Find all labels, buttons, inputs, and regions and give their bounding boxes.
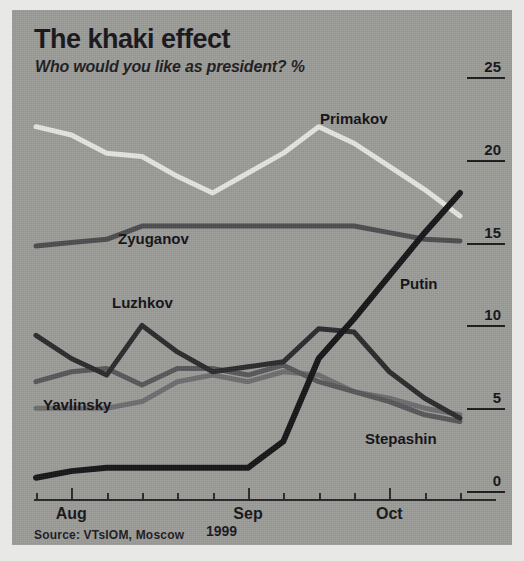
x-axis-tick <box>460 493 462 499</box>
x-axis-tick <box>142 493 144 499</box>
series-label-putin: Putin <box>400 275 438 292</box>
x-axis-tick <box>248 488 250 499</box>
y-axis-tick <box>467 325 505 327</box>
y-axis-label: 10 <box>467 306 501 323</box>
x-axis-label-aug: Aug <box>56 505 87 523</box>
y-axis-tick <box>467 408 505 410</box>
y-axis-label: 15 <box>467 224 501 241</box>
x-axis-tick <box>283 493 285 499</box>
x-axis-tick <box>213 493 215 499</box>
series-label-yavlinsky: Yavlinsky <box>43 396 111 413</box>
x-axis-line <box>34 499 496 501</box>
x-axis-tick <box>71 488 73 499</box>
x-axis-label-sep: Sep <box>233 505 262 523</box>
x-axis-tick <box>354 493 356 499</box>
x-axis-tick <box>425 493 427 499</box>
series-line-zyuganov <box>36 226 460 246</box>
series-label-primakov: Primakov <box>320 110 388 127</box>
y-axis-tick <box>467 77 505 79</box>
y-axis-label: 25 <box>467 58 501 75</box>
source-note: Source: VTsIOM, Moscow <box>34 528 184 542</box>
x-axis-label-oct: Oct <box>376 505 403 523</box>
y-axis-label: 5 <box>467 389 501 406</box>
x-axis-tick <box>36 493 38 499</box>
series-label-luzhkov: Luzhkov <box>112 294 173 311</box>
x-axis-year-label: 1999 <box>206 523 237 539</box>
series-line-primakov <box>36 127 460 216</box>
y-axis-label: 0 <box>467 472 501 489</box>
series-label-stepashin: Stepashin <box>365 430 437 447</box>
y-axis-label: 20 <box>467 141 501 158</box>
x-axis-tick <box>389 488 391 499</box>
y-axis-tick <box>467 160 505 162</box>
y-axis-tick <box>467 243 505 245</box>
y-axis-tick <box>467 491 505 493</box>
x-axis-tick <box>177 493 179 499</box>
chart-figure: The khaki effect Who would you like as p… <box>12 10 512 545</box>
series-label-zyuganov: Zyuganov <box>118 230 189 247</box>
x-axis-tick <box>107 493 109 499</box>
x-axis-tick <box>319 493 321 499</box>
